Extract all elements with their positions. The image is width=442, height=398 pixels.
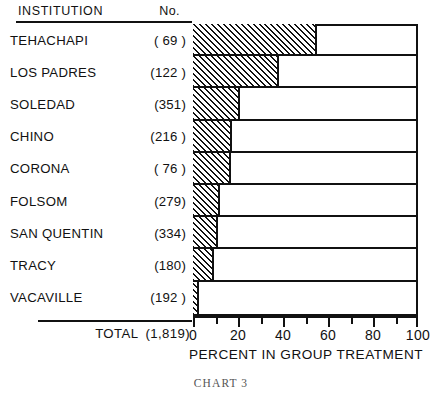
axis-tick-major	[238, 318, 240, 327]
axis-tick-minor	[396, 318, 398, 324]
axis-tick-major	[328, 318, 330, 327]
total-divider	[38, 320, 192, 322]
bar-track	[193, 185, 418, 217]
bar-fill	[193, 217, 218, 247]
table-row: CORONA( 76 )	[10, 153, 188, 185]
column-header-number: No.	[159, 4, 180, 18]
bar-fill	[193, 88, 240, 118]
table-row: SOLEDAD(351)	[10, 88, 188, 120]
bar-track	[193, 56, 418, 88]
table-row: TEHACHAPI( 69 )	[10, 24, 188, 56]
table-row: VACAVILLE(192 )	[10, 282, 188, 314]
bar-fill	[193, 282, 199, 314]
table-row: SAN QUENTIN(334)	[10, 217, 188, 249]
institution-population: (351)	[154, 97, 188, 112]
institution-name: SOLEDAD	[10, 97, 75, 112]
column-header-institution: INSTITUTION	[18, 4, 103, 18]
institution-population: (334)	[154, 226, 188, 241]
institution-name: LOS PADRES	[10, 65, 96, 80]
header-divider	[16, 21, 192, 23]
axis-tick-major	[193, 318, 195, 327]
bar-fill	[193, 153, 231, 183]
bar-fill	[193, 121, 232, 151]
institution-name: VACAVILLE	[10, 290, 83, 305]
institution-name: SAN QUENTIN	[10, 226, 103, 241]
institution-population: (122 )	[150, 65, 188, 80]
axis-tick-label: 0	[189, 327, 197, 343]
institution-name: CHINO	[10, 129, 54, 144]
total-value: (1,819)	[145, 326, 190, 341]
institution-population: ( 76 )	[154, 161, 188, 176]
bar-track	[193, 282, 418, 314]
bar-chart-plot	[193, 24, 418, 316]
institution-name: TEHACHAPI	[10, 33, 88, 48]
table-row: CHINO(216 )	[10, 121, 188, 153]
axis-tick-minor	[351, 318, 353, 324]
axis-tick-minor	[306, 318, 308, 324]
table-header: INSTITUTION No.	[18, 4, 186, 22]
institution-name: FOLSOM	[10, 194, 68, 209]
x-axis-title: PERCENT IN GROUP TREATMENT	[186, 347, 426, 362]
table-row: TRACY(180)	[10, 249, 188, 281]
axis-tick-label: 20	[230, 327, 246, 343]
institution-population: ( 69 )	[154, 33, 188, 48]
bar-fill	[193, 56, 279, 86]
institution-name: CORONA	[10, 161, 70, 176]
bar-track	[193, 249, 418, 281]
table-row: FOLSOM(279)	[10, 185, 188, 217]
axis-tick-label: 40	[275, 327, 291, 343]
axis-tick-major	[373, 318, 375, 327]
axis-tick-major	[416, 318, 418, 327]
bar-track	[193, 88, 418, 120]
x-axis-tick-labels: 020406080100	[193, 327, 418, 345]
institution-population: (192 )	[150, 290, 188, 305]
axis-tick-label: 60	[320, 327, 336, 343]
axis-tick-minor	[216, 318, 218, 324]
total-row: TOTAL (1,819)	[10, 324, 190, 342]
axis-tick-label: 80	[365, 327, 381, 343]
bar-fill	[193, 185, 220, 215]
axis-tick-major	[283, 318, 285, 327]
institution-name: TRACY	[10, 258, 56, 273]
bar-track	[193, 121, 418, 153]
bar-track	[193, 217, 418, 249]
institution-population: (279)	[154, 194, 188, 209]
institution-population: (216 )	[150, 129, 188, 144]
institution-population: (180)	[154, 258, 188, 273]
bar-track	[193, 153, 418, 185]
bar-fill	[193, 24, 317, 54]
bar-fill	[193, 249, 214, 279]
bar-track	[193, 24, 418, 56]
chart-page: INSTITUTION No. TEHACHAPI( 69 )LOS PADRE…	[0, 0, 442, 398]
axis-tick-minor	[261, 318, 263, 324]
axis-tick-label: 100	[406, 327, 430, 343]
chart-caption: CHART 3	[0, 377, 442, 389]
total-label: TOTAL	[95, 326, 138, 341]
table-row: LOS PADRES(122 )	[10, 56, 188, 88]
